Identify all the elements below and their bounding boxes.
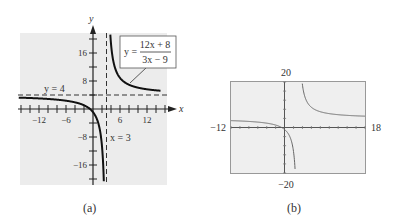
window-ymin-label: −20 — [278, 179, 294, 190]
window-xmin-label: −12 — [210, 122, 226, 133]
x-axis-label: x — [178, 103, 184, 114]
svg-text:12: 12 — [143, 115, 152, 125]
panel-a-graph: −12−6612 168−8−16 x y y = 4 x = 3 y = 12… — [18, 13, 184, 185]
window-ymax-label: 20 — [281, 67, 291, 78]
x-axis-arrow-icon — [168, 106, 177, 112]
svg-text:8: 8 — [83, 76, 88, 86]
svg-text:6: 6 — [118, 115, 123, 125]
function-numerator: 12x + 8 — [140, 39, 171, 50]
svg-text:−16: −16 — [73, 160, 88, 170]
svg-text:−8: −8 — [77, 132, 87, 142]
svg-text:−6: −6 — [61, 115, 71, 125]
horizontal-asymptote-label: y = 4 — [44, 83, 65, 94]
function-label-prefix: y = — [124, 46, 138, 57]
caption-b: (b) — [287, 201, 301, 216]
caption-a: (a) — [83, 201, 96, 216]
y-axis-label: y — [88, 13, 94, 24]
figure: −12−6612 168−8−16 x y y = 4 x = 3 y = 12… — [0, 0, 394, 223]
svg-text:−12: −12 — [32, 115, 46, 125]
function-denominator: 3x − 9 — [142, 54, 168, 65]
y-axis-arrow-icon — [90, 25, 96, 34]
panel-b-graph: 20 −20 −12 18 — [210, 67, 381, 190]
vertical-asymptote-label: x = 3 — [110, 132, 131, 143]
svg-text:16: 16 — [78, 48, 88, 58]
window-xmax-label: 18 — [371, 122, 381, 133]
